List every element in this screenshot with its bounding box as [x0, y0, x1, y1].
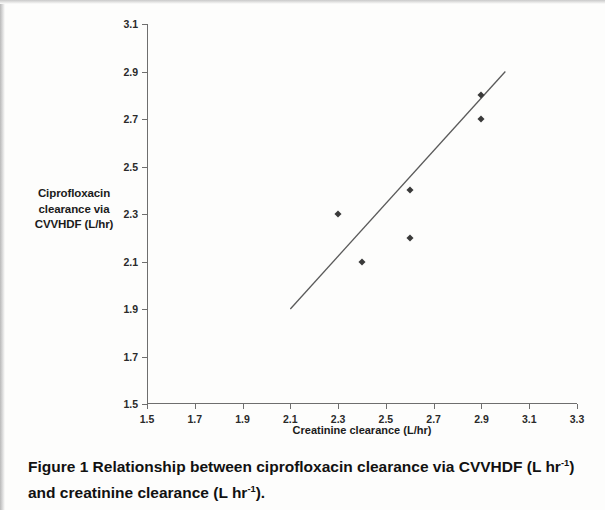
plot-area: 1.51.71.92.12.32.52.72.93.11.51.71.92.12… — [147, 24, 577, 404]
x-axis-tick — [434, 404, 435, 409]
figure-caption: Figure 1 Relationship between ciprofloxa… — [28, 452, 584, 504]
x-axis-tick — [195, 404, 196, 409]
x-axis-tick — [577, 404, 578, 409]
caption-part-1: Relationship between ciprofloxacin clear… — [88, 458, 561, 475]
scanned-page: Ciprofloxacinclearance viaCVVHDF (L/hr) … — [0, 0, 605, 510]
y-axis-tick — [142, 309, 147, 310]
x-axis-tick — [147, 404, 148, 409]
y-axis-title-line-1: Ciprofloxacin — [14, 186, 134, 202]
x-axis-tick — [529, 404, 530, 409]
y-axis-tick — [142, 167, 147, 168]
y-axis-tick-label: 3.1 — [123, 18, 138, 30]
y-axis-title-line-2: clearance via — [14, 202, 134, 218]
caption-part-3: ). — [256, 484, 265, 501]
x-axis-tick — [338, 404, 339, 409]
trendline — [147, 24, 577, 404]
y-axis-tick-label: 1.9 — [123, 303, 138, 315]
y-axis-tick-label: 2.7 — [123, 113, 138, 125]
y-axis-tick-label: 2.5 — [123, 161, 138, 173]
y-axis-tick — [142, 262, 147, 263]
caption-label: Figure 1 — [28, 458, 88, 475]
y-axis-tick-label: 1.5 — [123, 398, 138, 410]
y-axis-tick-label: 1.7 — [123, 351, 138, 363]
y-axis-tick-label: 2.1 — [123, 256, 138, 268]
x-axis-tick — [481, 404, 482, 409]
y-axis-title-line-3: CVVHDF (L/hr) — [14, 217, 134, 233]
y-axis-tick — [142, 357, 147, 358]
y-axis-tick — [142, 214, 147, 215]
x-axis-tick — [243, 404, 244, 409]
y-axis-tick — [142, 72, 147, 73]
y-axis-tick-label: 2.3 — [123, 208, 138, 220]
x-axis-tick — [290, 404, 291, 409]
x-axis-tick — [386, 404, 387, 409]
y-axis-tick — [142, 24, 147, 25]
caption-superscript-1: -1 — [561, 458, 569, 468]
y-axis-tick-label: 2.9 — [123, 66, 138, 78]
y-axis-tick — [142, 119, 147, 120]
figure-image: Ciprofloxacinclearance viaCVVHDF (L/hr) … — [0, 0, 605, 432]
caption-superscript-2: -1 — [247, 484, 255, 494]
x-axis-title: Creatinine clearance (L/hr) — [147, 424, 577, 436]
y-axis-title: Ciprofloxacinclearance viaCVVHDF (L/hr) — [14, 186, 134, 233]
